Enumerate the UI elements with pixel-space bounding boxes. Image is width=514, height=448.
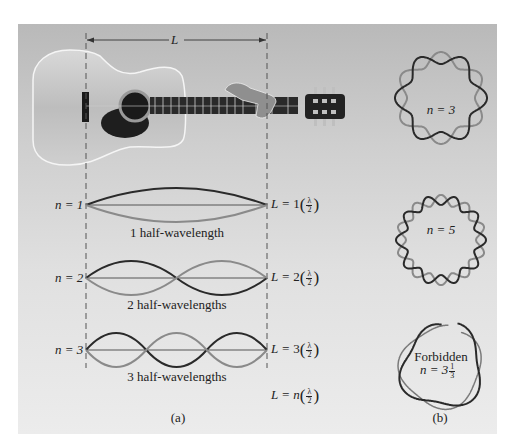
formula-prefix: L = [271, 387, 293, 402]
fraction: λ2 [306, 342, 312, 359]
length-formula-n2: L = 2(λ2) [271, 268, 319, 288]
ring-n5 [396, 195, 486, 285]
length-formula-n3: L = 3(λ2) [271, 340, 319, 360]
formula-prefix: L = [271, 269, 293, 284]
ring-label-forbidden-n: n = 313 [420, 362, 456, 380]
caption-n1: 1 half-wavelength [126, 225, 228, 241]
standing-wave-n1 [86, 188, 267, 222]
forbidden-n-text: n = 3 [420, 362, 448, 377]
fraction: λ2 [306, 270, 312, 287]
length-formula-n1: L = 1(λ2) [271, 195, 319, 215]
length-formula-general: L = n(λ2) [271, 386, 319, 406]
guitar-image [33, 50, 345, 165]
fraction: λ2 [306, 197, 312, 214]
formula-prefix: L = [271, 196, 293, 211]
panel-label-a: (a) [166, 410, 190, 426]
ring-n3 [395, 52, 487, 144]
ring-label-n3: n = 3 [416, 102, 466, 118]
panel-label-b: (b) [428, 410, 452, 426]
mode-label-text: n = 3 [55, 342, 83, 357]
standing-wave-n3 [86, 333, 267, 367]
standing-wave-n2 [86, 261, 267, 295]
caption-n3: 3 half-wavelengths [121, 369, 233, 385]
ring-label-n5: n = 5 [416, 222, 466, 238]
length-label: L [171, 32, 178, 48]
mode-label-n1: n = 1 [55, 197, 83, 213]
fraction: λ2 [306, 388, 312, 405]
guitar-head [305, 94, 345, 119]
mode-label-text: n = 1 [55, 197, 83, 212]
formula-prefix: L = [271, 341, 293, 356]
mode-label-n3: n = 3 [55, 342, 83, 358]
fraction: 13 [449, 363, 455, 380]
mode-label-text: n = 2 [55, 270, 83, 285]
mode-label-n2: n = 2 [55, 270, 83, 286]
caption-n2: 2 half-wavelengths [121, 297, 233, 313]
